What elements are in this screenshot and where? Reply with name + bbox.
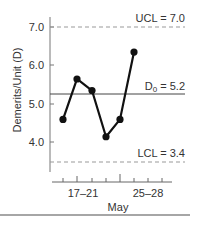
data-point — [130, 48, 137, 55]
data-point — [88, 87, 95, 94]
data-point — [73, 75, 80, 82]
data-point — [59, 116, 66, 123]
y-tick-label-5: 5.0 — [29, 98, 44, 110]
x-axis-title: May — [108, 201, 129, 213]
y-tick-label-4: 4.0 — [29, 136, 44, 148]
control-chart: 7.0 6.0 5.0 4.0 Demerits/Unit (D) UCL = … — [0, 0, 198, 225]
d0-label: D0 = 5.2 — [145, 80, 185, 94]
ucl-label: UCL = 7.0 — [136, 12, 185, 24]
data-point — [116, 116, 123, 123]
lcl-label: LCL = 3.4 — [137, 147, 185, 159]
x-tick-label-25-28: 25–28 — [133, 187, 164, 199]
y-tick-label-7: 7.0 — [29, 21, 44, 33]
x-tick-label-17-21: 17–21 — [68, 187, 99, 199]
data-point — [102, 133, 109, 140]
x-ticks — [63, 174, 162, 182]
y-tick-label-6: 6.0 — [29, 59, 44, 71]
y-axis-title: Demerits/Unit (D) — [11, 48, 23, 133]
